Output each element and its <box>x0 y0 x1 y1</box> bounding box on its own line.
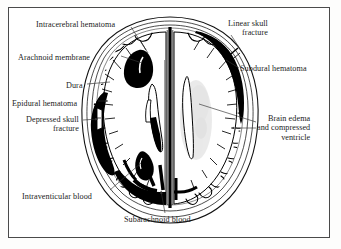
label-intraventicular-blood: Intraventicular blood <box>22 192 92 201</box>
label-brain-edema: Brain edema and compressed ventricle <box>257 114 310 142</box>
label-subarachnoid-blood: Subarachnoid blood <box>124 215 191 224</box>
label-epidural-hematoma: Epidural hematoma <box>12 99 77 108</box>
subarachnoid-blood-right <box>174 178 197 200</box>
label-arachnoid-membrane: Arachnoid membrane <box>18 53 90 62</box>
label-depressed-skull-fracture: Depressed skull fracture <box>26 115 79 134</box>
label-linear-skull-fracture: Linear skull fracture <box>228 19 268 38</box>
label-subdural-hematoma: Subdural hematoma <box>240 64 307 73</box>
label-intracerebral-hematoma: Intracerebral hematoma <box>36 20 115 29</box>
label-dura: Dura <box>66 81 83 90</box>
